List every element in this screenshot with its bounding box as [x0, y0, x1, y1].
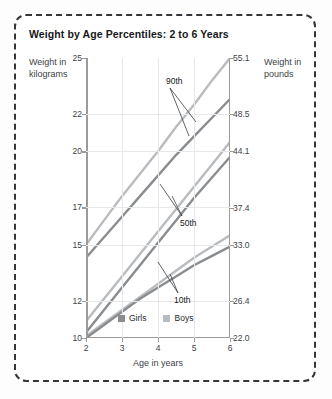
chart-screenshot: Weight by Age Percentiles: 2 to 6 Years …	[0, 0, 332, 399]
plot-area	[86, 58, 230, 338]
gridline-vertical	[158, 58, 159, 338]
y-tick-mark-left	[82, 245, 86, 246]
y-tick-mark-right	[230, 301, 234, 302]
x-tick-mark	[194, 338, 195, 342]
gridline-vertical	[194, 58, 195, 338]
x-tick-mark	[122, 338, 123, 342]
y-tick-label-left: 10	[60, 333, 82, 343]
legend-swatch-girls	[118, 315, 125, 322]
y-tick-mark-right	[230, 208, 234, 209]
y-tick-mark-left	[82, 114, 86, 115]
y-axis-right-line	[229, 58, 231, 338]
chart-legend: Girls Boys	[118, 313, 193, 323]
legend-label-boys: Boys	[174, 313, 193, 323]
y-tick-label-right: 48.5	[233, 109, 259, 119]
y-tick-label-left: 12	[60, 296, 82, 306]
y-tick-mark-left	[82, 58, 86, 59]
x-tick-mark	[158, 338, 159, 342]
y-tick-label-right: 55.1	[233, 53, 259, 63]
y-tick-label-left: 25	[60, 53, 82, 63]
legend-item-girls: Girls	[118, 313, 146, 323]
x-tick-label: 6	[222, 343, 238, 353]
legend-item-boys: Boys	[163, 313, 193, 323]
x-tick-label: 3	[114, 343, 130, 353]
y-tick-label-left: 20	[60, 146, 82, 156]
y-tick-mark-right	[230, 58, 234, 59]
legend-label-girls: Girls	[129, 313, 146, 323]
y-tick-mark-right	[230, 151, 234, 152]
y-tick-mark-left	[82, 151, 86, 152]
y-tick-mark-right	[230, 114, 234, 115]
y-axis-right-caption: Weight in pounds	[264, 56, 320, 80]
x-axis-label: Age in years	[86, 358, 230, 368]
y-tick-label-right: 44.1	[233, 146, 259, 156]
chart-title: Weight by Age Percentiles: 2 to 6 Years	[29, 28, 289, 40]
y-tick-mark-left	[82, 207, 86, 208]
gridline-vertical	[122, 58, 123, 338]
y-tick-label-right: 22.0	[233, 333, 259, 343]
y-tick-label-right: 37.4	[233, 203, 259, 213]
y-tick-label-left: 15	[60, 240, 82, 250]
x-tick-label: 2	[78, 343, 94, 353]
y-tick-label-left: 17	[60, 202, 82, 212]
y-tick-mark-right	[230, 245, 234, 246]
x-tick-mark	[86, 338, 87, 342]
annotation-label-90th: 90th	[166, 76, 183, 86]
annotation-label-50th: 50th	[180, 218, 197, 228]
y-tick-label-right: 33.0	[233, 240, 259, 250]
x-tick-label: 5	[186, 343, 202, 353]
legend-swatch-boys	[163, 315, 170, 322]
x-tick-label: 4	[150, 343, 166, 353]
annotation-label-10th: 10th	[174, 295, 191, 305]
y-tick-label-left: 22	[60, 109, 82, 119]
x-tick-mark	[230, 338, 231, 342]
y-axis-left-line	[86, 58, 88, 338]
y-tick-mark-left	[82, 301, 86, 302]
y-tick-label-right: 26.4	[233, 296, 259, 306]
